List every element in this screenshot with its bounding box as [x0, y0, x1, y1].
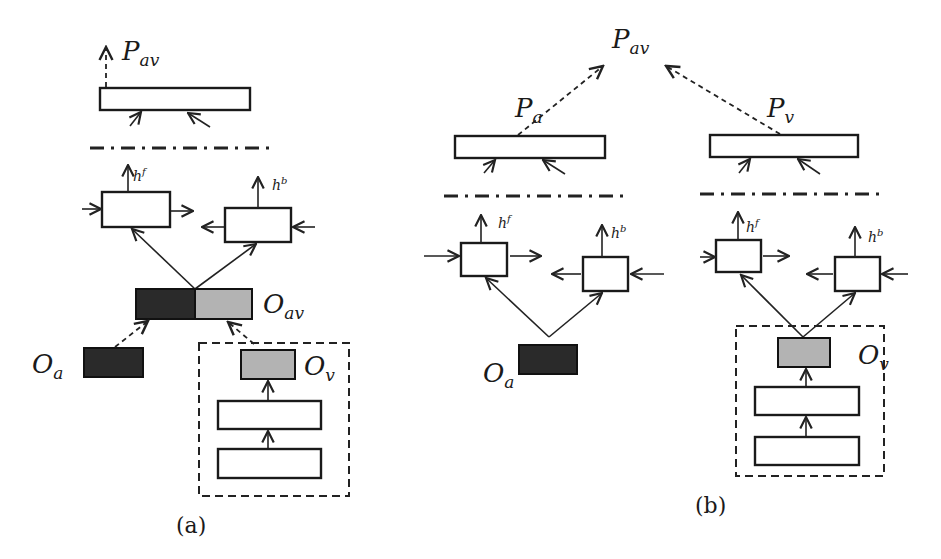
panel-a-caption: (a): [176, 513, 206, 538]
audio-feat-to-backward-arrow: [549, 293, 602, 337]
visual-dense-input-right: [798, 159, 820, 174]
panel-b-caption: (b): [695, 493, 726, 518]
visual-dense-input-left: [739, 159, 750, 173]
audio-backward-hidden-label: hb: [611, 223, 626, 241]
fused-audio-part: [136, 289, 195, 319]
visual-cnn-layer-1: [755, 387, 859, 415]
audio-forward-lstm-cell: [461, 243, 507, 276]
audio-feature-label: Oa: [483, 358, 514, 392]
dense-input-arrow-left: [130, 112, 141, 126]
visual-forward-lstm-cell: [716, 240, 761, 272]
visual-feature-block: [778, 338, 830, 367]
visual-feature-label: Ov: [858, 340, 889, 374]
visual-prediction-label: Pv: [766, 93, 795, 127]
svg-text:Pav: Pav: [121, 36, 160, 70]
visual-cnn-layer-1: [218, 401, 321, 429]
panel-b: Pav Pa Pv hf hb Oa hf: [424, 24, 908, 518]
fused-feature-label: Oav: [263, 289, 304, 323]
panel-a: Pav hf hb Oav Oa Ov: [32, 36, 349, 538]
audio-feat-to-forward-arrow: [486, 278, 549, 337]
audio-backward-lstm-cell: [583, 257, 628, 291]
panel-b-output-label: Pav: [611, 24, 650, 58]
visual-feat-to-forward-arrow: [741, 275, 803, 337]
visual-feature-block: [241, 350, 295, 379]
audio-feature-block: [519, 345, 577, 374]
audio-dense-input-left: [484, 160, 495, 173]
fused-to-backward-arrow: [195, 244, 256, 289]
audio-feature-label: Oa: [32, 349, 63, 383]
fused-visual-part: [195, 289, 252, 319]
forward-lstm-cell: [102, 192, 170, 227]
visual-backward-hidden-label: hb: [868, 227, 883, 245]
visual-cnn-layer-2: [218, 449, 321, 478]
dense-input-arrow-right: [188, 113, 210, 127]
audio-dense-input-right: [543, 160, 565, 174]
backward-hidden-label: hb: [272, 175, 287, 193]
backward-lstm-cell: [225, 208, 291, 242]
visual-pred-to-output-arrow: [666, 66, 780, 134]
visual-feature-label: Ov: [304, 351, 335, 385]
audio-prediction-label: Pa: [514, 93, 543, 127]
audio-to-fused-arrow: [115, 321, 148, 347]
visual-dense-layer: [710, 135, 858, 157]
audio-dense-layer: [455, 136, 605, 158]
panel-a-output-label: Pav: [121, 36, 160, 70]
audio-feature-block: [84, 348, 143, 377]
fused-to-forward-arrow: [132, 229, 195, 289]
visual-backward-lstm-cell: [835, 257, 880, 291]
visual-cnn-layer-2: [755, 437, 859, 465]
diagram-canvas: Pav hf hb Oav Oa Ov: [0, 0, 941, 559]
visual-to-fused-arrow: [228, 322, 254, 344]
visual-feat-to-backward-arrow: [803, 293, 855, 337]
visual-forward-hidden-label: hf: [746, 217, 761, 235]
audio-forward-hidden-label: hf: [498, 213, 513, 231]
forward-hidden-label: hf: [133, 166, 148, 184]
dense-layer: [100, 88, 250, 110]
